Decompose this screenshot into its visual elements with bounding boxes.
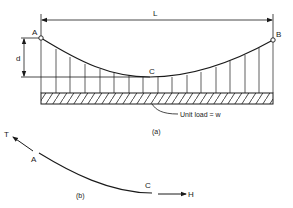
figure-b: T A C H (b) [4, 130, 194, 200]
cable-curve [41, 38, 273, 77]
suspension-cable-diagram: L d [0, 0, 293, 208]
load-leader [152, 104, 178, 114]
figure-a: L d [16, 9, 281, 136]
vertical-hangers [41, 38, 273, 93]
point-a-b-label: A [31, 155, 37, 164]
cable-segment [39, 153, 152, 193]
anchor-b [271, 38, 275, 42]
caption-b: (b) [76, 192, 85, 200]
tension-arrow [13, 137, 33, 151]
point-a-label: A [32, 28, 38, 37]
tension-label: T [4, 130, 9, 139]
point-c-label: C [149, 67, 155, 76]
horizontal-label: H [188, 190, 194, 199]
caption-a: (a) [152, 128, 161, 136]
span-label: L [153, 9, 158, 18]
sag-dimension [21, 38, 150, 77]
sag-label: d [16, 54, 20, 63]
anchor-a [39, 36, 43, 40]
point-c-b-label: C [145, 181, 151, 190]
point-b-label: B [276, 30, 281, 39]
deck-beam [41, 93, 273, 104]
load-annotation: Unit load = w [180, 111, 222, 118]
